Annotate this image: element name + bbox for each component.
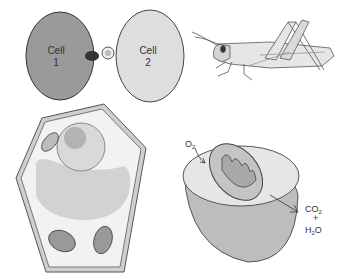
nucleolus [64,127,86,149]
cell-2-label: Cell [139,45,156,56]
respiration-illustration: O2 CO2 + H2O [183,133,323,262]
cell-2 [116,10,184,102]
plant-cell-illustration [16,104,146,272]
grasshopper-illustration [192,20,334,80]
cell-1-label: Cell [47,45,64,56]
cell-1-number: 1 [53,57,59,68]
cell-interaction-panel: Cell 1 Cell 2 [26,10,184,102]
o2-label: O2 [185,139,196,150]
biology-levels-diagram: Cell 1 Cell 2 O2 CO2 [0,0,352,279]
cell-1 [26,12,94,100]
h2o-label: H2O [305,225,322,236]
plus-label: + [313,213,318,223]
cell-2-number: 2 [145,57,151,68]
signal-molecule [85,51,99,61]
